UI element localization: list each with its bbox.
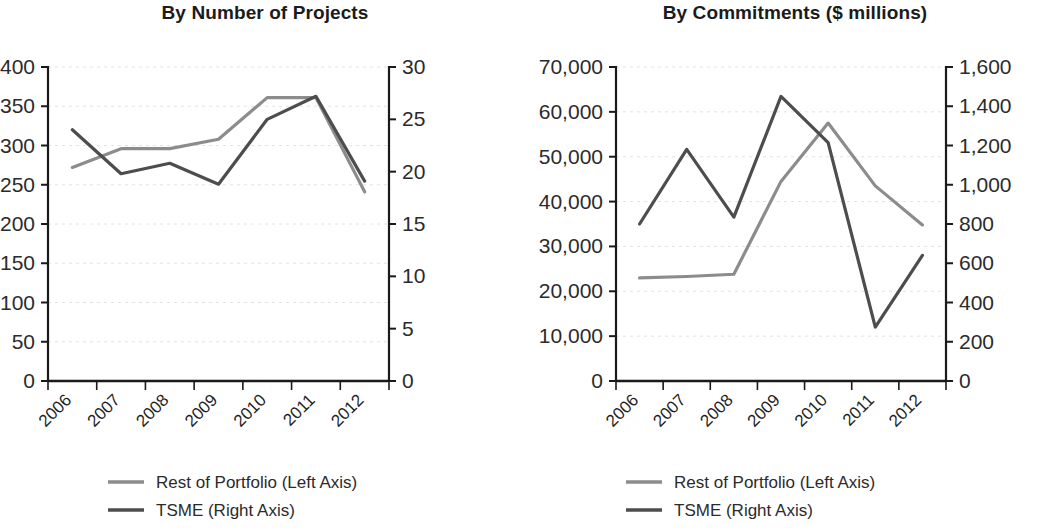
y-axis-left-tick-10000: 10,000: [539, 324, 603, 347]
y-axis-right-tick-1400: 1,400: [959, 94, 1012, 117]
y-axis-left-tick-20000: 20,000: [539, 279, 603, 302]
y-axis-right-tick-20: 20: [402, 160, 425, 183]
y-axis-left-tick-250: 250: [0, 173, 35, 196]
series-line-tsme: [640, 96, 923, 327]
x-axis-tick-label-2007: 2007: [84, 390, 124, 430]
chart-svg-commitments: 010,00020,00030,00040,00050,00060,00070,…: [530, 0, 1060, 528]
y-axis-right-tick-15: 15: [402, 212, 425, 235]
y-axis-left-tick-100: 100: [0, 291, 35, 314]
legend-label-tsme: TSME (Right Axis): [156, 501, 295, 520]
x-axis-tick-label-2012: 2012: [885, 390, 925, 430]
y-axis-right-tick-1600: 1,600: [959, 55, 1012, 78]
chart-panel-projects: By Number of Projects 050100150200250300…: [0, 0, 530, 528]
y-axis-right-tick-1200: 1,200: [959, 134, 1012, 157]
legend-label-rest-of-portfolio: Rest of Portfolio (Left Axis): [156, 473, 357, 492]
dual-chart-figure: By Number of Projects 050100150200250300…: [0, 0, 1060, 528]
y-axis-left-tick-150: 150: [0, 251, 35, 274]
y-axis-right-tick-1000: 1,000: [959, 173, 1012, 196]
y-axis-right-tick-0: 0: [402, 369, 414, 392]
y-axis-right-tick-400: 400: [959, 291, 994, 314]
x-axis-tick-label-2012: 2012: [327, 390, 367, 430]
x-axis-tick-label-2009: 2009: [181, 390, 221, 430]
y-axis-right-tick-25: 25: [402, 107, 425, 130]
x-axis-tick-label-2007: 2007: [649, 390, 689, 430]
y-axis-right-tick-600: 600: [959, 251, 994, 274]
x-axis-tick-label-2006: 2006: [35, 390, 75, 430]
legend-label-tsme: TSME (Right Axis): [674, 501, 813, 520]
x-axis-tick-label-2009: 2009: [744, 390, 784, 430]
y-axis-left-tick-50000: 50,000: [539, 145, 603, 168]
x-axis-tick-label-2006: 2006: [602, 390, 642, 430]
y-axis-left-tick-0: 0: [23, 369, 35, 392]
chart-svg-projects: 0501001502002503003504000510152025302006…: [0, 0, 530, 528]
series-line-rest-of-portfolio: [640, 123, 923, 278]
y-axis-left-tick-400: 400: [0, 55, 35, 78]
y-axis-right-tick-10: 10: [402, 264, 425, 287]
y-axis-left-tick-30000: 30,000: [539, 234, 603, 257]
legend-label-rest-of-portfolio: Rest of Portfolio (Left Axis): [674, 473, 875, 492]
y-axis-left-tick-70000: 70,000: [539, 55, 603, 78]
y-axis-left-tick-40000: 40,000: [539, 190, 603, 213]
y-axis-left-tick-300: 300: [0, 134, 35, 157]
y-axis-right-tick-5: 5: [402, 317, 414, 340]
x-axis-tick-label-2008: 2008: [132, 390, 172, 430]
x-axis-tick-label-2010: 2010: [230, 390, 270, 430]
x-axis-tick-label-2011: 2011: [839, 390, 878, 429]
plot-area-projects: 0501001502002503003504000510152025302006…: [0, 0, 530, 528]
y-axis-left-tick-60000: 60,000: [539, 100, 603, 123]
y-axis-left-tick-350: 350: [0, 94, 35, 117]
y-axis-left-tick-50: 50: [12, 330, 35, 353]
x-axis-tick-label-2008: 2008: [697, 390, 737, 430]
x-axis-tick-label-2011: 2011: [279, 390, 318, 429]
y-axis-right-tick-30: 30: [402, 55, 425, 78]
y-axis-right-tick-200: 200: [959, 330, 994, 353]
y-axis-left-tick-0: 0: [591, 369, 603, 392]
chart-panel-commitments: By Commitments ($ millions) 010,00020,00…: [530, 0, 1060, 528]
y-axis-right-tick-0: 0: [959, 369, 971, 392]
x-axis-tick-label-2010: 2010: [791, 390, 831, 430]
series-line-rest-of-portfolio: [72, 98, 364, 192]
plot-area-commitments: 010,00020,00030,00040,00050,00060,00070,…: [530, 0, 1060, 528]
y-axis-left-tick-200: 200: [0, 212, 35, 235]
y-axis-right-tick-800: 800: [959, 212, 994, 235]
